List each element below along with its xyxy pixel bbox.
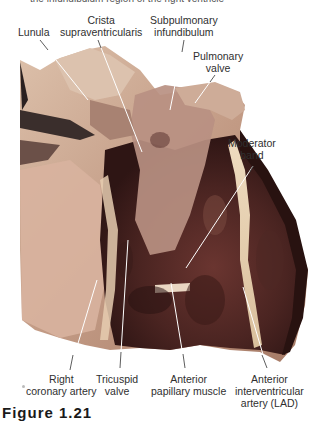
label-subpulmonary-infundibulum: Subpulmonary infundibulum [150,14,218,38]
label-line: artery (LAD) [235,397,304,409]
stray-mark [22,385,25,388]
label-crista-supraventricularis: Crista supraventricularis [60,14,142,38]
label-line: papillary muscle [151,385,226,397]
label-line: coronary artery [26,385,97,397]
label-line: Tricuspid [96,373,138,385]
label-anterior-papillary-muscle: Anterior papillary muscle [151,373,226,397]
label-line: Crista [60,14,142,26]
label-line: Right [26,373,97,385]
label-tricuspid-valve: Tricuspid valve [96,373,138,397]
label-line: Moderator [228,137,276,149]
label-line: Lunula [18,26,50,38]
label-line: Subpulmonary [150,14,218,26]
label-right-coronary-artery: Right coronary artery [26,373,97,397]
label-line: valve [96,385,138,397]
label-lunula: Lunula [18,26,50,38]
label-line: Anterior [235,373,304,385]
label-moderator-band: Moderator band [228,137,276,161]
label-line: band [228,149,276,161]
label-line: supraventricularis [60,26,142,38]
label-line: infundibulum [150,26,218,38]
label-line: Pulmonary [193,50,243,62]
figure-number: Figure 1.21 [2,404,92,421]
label-anterior-interventricular-artery: Anterior interventricular artery (LAD) [235,373,304,409]
label-line: Anterior [151,373,226,385]
label-line: valve [193,62,243,74]
label-pulmonary-valve: Pulmonary valve [193,50,243,74]
label-line: interventricular [235,385,304,397]
